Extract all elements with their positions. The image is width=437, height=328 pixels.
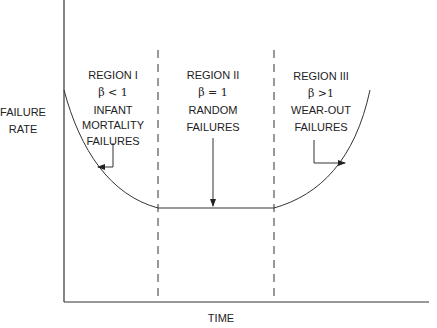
- region-3-beta: β >1: [308, 87, 334, 100]
- y-axis-label-line-2: RATE: [9, 123, 38, 135]
- region-3-desc-2: FAILURES: [294, 121, 347, 133]
- region-3-desc-1: WEAR-OUT: [291, 104, 351, 116]
- region-1-desc-1: INFANT: [93, 104, 132, 116]
- region-1-desc-3: FAILURES: [86, 135, 139, 147]
- region-2-desc-2: FAILURES: [186, 121, 239, 133]
- bathtub-curve-diagram: FAILURE RATE TIME REGION I β < 1 INFANT …: [0, 0, 437, 328]
- x-axis-label: TIME: [208, 312, 234, 324]
- region-2-desc-1: RANDOM: [189, 104, 238, 116]
- region-2-beta: β = 1: [198, 86, 228, 99]
- region-2-title: REGION II: [187, 69, 240, 81]
- region-1-title: REGION I: [88, 69, 138, 81]
- region-1-beta: β < 1: [98, 86, 128, 99]
- region-1-desc-2: MORTALITY: [82, 119, 145, 131]
- region-3-arrow: [314, 140, 345, 163]
- y-axis-label-line-1: FAILURE: [0, 106, 46, 118]
- region-3-title: REGION III: [293, 70, 349, 82]
